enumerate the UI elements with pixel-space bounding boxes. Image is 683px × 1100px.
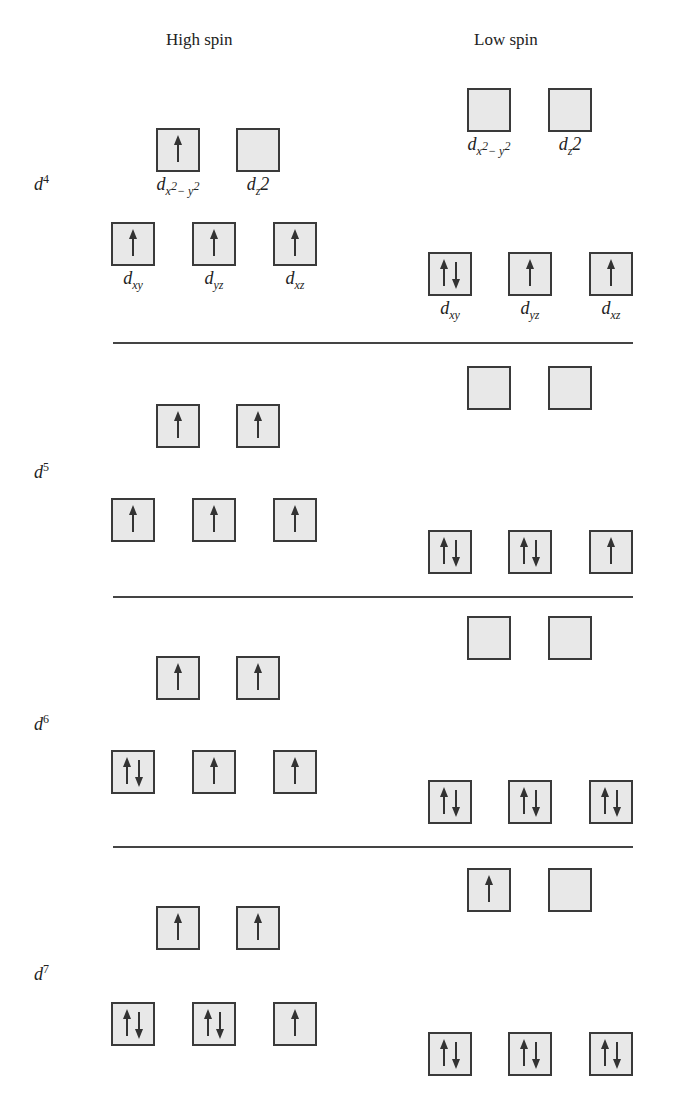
- spin-up-arrow-icon: [591, 532, 631, 572]
- high-spin-dxz-box: [273, 222, 317, 266]
- spin-pair-arrows-icon: [113, 752, 153, 792]
- low-spin-label-dxz: dxz: [571, 298, 651, 323]
- low-spin-dx2y2-box: [467, 366, 511, 410]
- low-spin-dxy-box: [428, 252, 472, 296]
- low-spin-label-dyz: dyz: [490, 298, 570, 323]
- high-spin-dz2-box: [236, 906, 280, 950]
- spin-pair-arrows-icon: [430, 254, 470, 294]
- high-spin-dx2y2-box: [156, 656, 200, 700]
- low-spin-dz2-box: [548, 366, 592, 410]
- low-spin-dxz-box: [589, 780, 633, 824]
- low-spin-dxz-box: [589, 1032, 633, 1076]
- low-spin-dyz-box: [508, 530, 552, 574]
- spin-up-arrow-icon: [510, 254, 550, 294]
- low-spin-dz2-box: [548, 868, 592, 912]
- low-spin-dx2y2-box: [467, 868, 511, 912]
- low-spin-dxy-box: [428, 780, 472, 824]
- spin-up-arrow-icon: [194, 752, 234, 792]
- header-low-spin: Low spin: [474, 30, 538, 50]
- spin-up-arrow-icon: [113, 500, 153, 540]
- spin-up-arrow-icon: [158, 406, 198, 446]
- spin-up-arrow-icon: [194, 500, 234, 540]
- low-spin-dxy-box: [428, 530, 472, 574]
- high-spin-label-dxz: dxz: [255, 268, 335, 293]
- spin-up-arrow-icon: [238, 658, 278, 698]
- config-label-d6: d6: [34, 712, 49, 735]
- high-spin-dxz-box: [273, 750, 317, 794]
- spin-pair-arrows-icon: [510, 782, 550, 822]
- high-spin-dxy-box: [111, 222, 155, 266]
- header-high-spin: High spin: [166, 30, 233, 50]
- low-spin-dyz-box: [508, 1032, 552, 1076]
- high-spin-label-dyz: dyz: [174, 268, 254, 293]
- high-spin-dxz-box: [273, 1002, 317, 1046]
- low-spin-dxy-box: [428, 1032, 472, 1076]
- low-spin-dx2y2-box: [467, 88, 511, 132]
- high-spin-dyz-box: [192, 1002, 236, 1046]
- config-label-d4: d4: [34, 172, 49, 195]
- config-label-d7: d7: [34, 962, 49, 985]
- high-spin-dx2y2-box: [156, 906, 200, 950]
- high-spin-dxz-box: [273, 498, 317, 542]
- spin-up-arrow-icon: [238, 908, 278, 948]
- low-spin-dxz-box: [589, 252, 633, 296]
- spin-up-arrow-icon: [158, 908, 198, 948]
- high-spin-label-dxy: dxy: [93, 268, 173, 293]
- low-spin-dyz-box: [508, 780, 552, 824]
- low-spin-dz2-box: [548, 616, 592, 660]
- section-divider: [113, 846, 633, 848]
- low-spin-label-dxy: dxy: [410, 298, 490, 323]
- low-spin-label-dz2: dz2: [530, 134, 610, 159]
- high-spin-dx2y2-box: [156, 404, 200, 448]
- high-spin-dyz-box: [192, 498, 236, 542]
- low-spin-label-dx2y2: dx2− y2: [449, 134, 529, 159]
- spin-up-arrow-icon: [275, 1004, 315, 1044]
- spin-up-arrow-icon: [591, 254, 631, 294]
- spin-pair-arrows-icon: [591, 1034, 631, 1074]
- spin-up-arrow-icon: [275, 224, 315, 264]
- spin-pair-arrows-icon: [194, 1004, 234, 1044]
- high-spin-label-dx2y2: dx2− y2: [138, 174, 218, 199]
- spin-up-arrow-icon: [275, 752, 315, 792]
- low-spin-dz2-box: [548, 88, 592, 132]
- low-spin-dxz-box: [589, 530, 633, 574]
- spin-up-arrow-icon: [113, 224, 153, 264]
- spin-pair-arrows-icon: [591, 782, 631, 822]
- spin-up-arrow-icon: [194, 224, 234, 264]
- high-spin-dxy-box: [111, 750, 155, 794]
- spin-pair-arrows-icon: [430, 1034, 470, 1074]
- section-divider: [113, 342, 633, 344]
- spin-pair-arrows-icon: [510, 1034, 550, 1074]
- spin-pair-arrows-icon: [430, 782, 470, 822]
- spin-up-arrow-icon: [238, 406, 278, 446]
- high-spin-dyz-box: [192, 222, 236, 266]
- high-spin-dxy-box: [111, 1002, 155, 1046]
- spin-up-arrow-icon: [275, 500, 315, 540]
- low-spin-dx2y2-box: [467, 616, 511, 660]
- config-label-d5: d5: [34, 460, 49, 483]
- low-spin-dyz-box: [508, 252, 552, 296]
- section-divider: [113, 596, 633, 598]
- high-spin-dz2-box: [236, 128, 280, 172]
- spin-up-arrow-icon: [158, 658, 198, 698]
- high-spin-label-dz2: dz2: [218, 174, 298, 199]
- high-spin-dz2-box: [236, 404, 280, 448]
- spin-up-arrow-icon: [469, 870, 509, 910]
- high-spin-dx2y2-box: [156, 128, 200, 172]
- high-spin-dxy-box: [111, 498, 155, 542]
- spin-up-arrow-icon: [158, 130, 198, 170]
- high-spin-dz2-box: [236, 656, 280, 700]
- spin-pair-arrows-icon: [510, 532, 550, 572]
- high-spin-dyz-box: [192, 750, 236, 794]
- spin-pair-arrows-icon: [430, 532, 470, 572]
- spin-pair-arrows-icon: [113, 1004, 153, 1044]
